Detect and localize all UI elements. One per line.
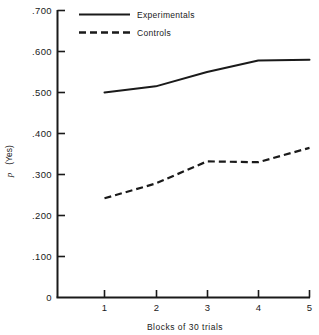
y-tick-label-300: .300	[32, 169, 52, 180]
y-axis-title-paren: (Yes)	[4, 145, 14, 165]
x-tick-label-1: 1	[102, 302, 108, 313]
x-axis-title: Blocks of 30 trials	[147, 322, 223, 332]
y-tick-label-100: .100	[32, 251, 52, 262]
x-tick-label-3: 3	[205, 302, 211, 313]
x-tick-label-4: 4	[256, 302, 262, 313]
y-tick-label-200: .200	[32, 210, 52, 221]
y-tick-label-400: .400	[32, 128, 52, 139]
y-tick-label-700: .700	[32, 5, 52, 16]
line-chart-figure: .700 .600 .500 .400 .300 .200 .100 0 p (…	[0, 0, 319, 335]
x-tick-label-2: 2	[154, 302, 160, 313]
legend-label-experimentals: Experimentals	[137, 10, 195, 20]
y-tick-label-500: .500	[32, 87, 52, 98]
x-tick-label-5: 5	[307, 302, 313, 313]
legend-label-controls: Controls	[137, 28, 171, 38]
y-axis-title: p (Yes)	[4, 145, 14, 178]
y-axis-title-symbol: p	[4, 172, 14, 178]
y-tick-label-0: 0	[46, 292, 52, 303]
y-tick-label-600: .600	[32, 46, 52, 57]
